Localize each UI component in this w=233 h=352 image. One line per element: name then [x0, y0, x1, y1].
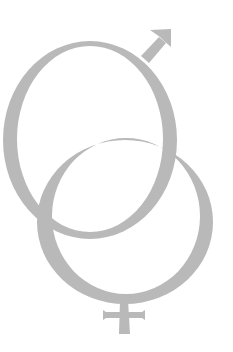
mars-icon — [3, 29, 177, 239]
venus-icon — [37, 138, 213, 334]
